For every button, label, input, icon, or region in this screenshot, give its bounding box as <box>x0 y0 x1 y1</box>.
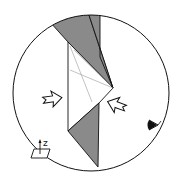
detail-circle-content <box>50 12 113 167</box>
fold-diagram: z <box>0 0 178 187</box>
push-arrow-right-icon <box>42 90 63 108</box>
axis-label-z: z <box>43 138 48 148</box>
push-arrow-left-icon <box>105 94 128 116</box>
z-axis-icon: z <box>31 138 50 158</box>
eye-icon <box>148 120 162 130</box>
